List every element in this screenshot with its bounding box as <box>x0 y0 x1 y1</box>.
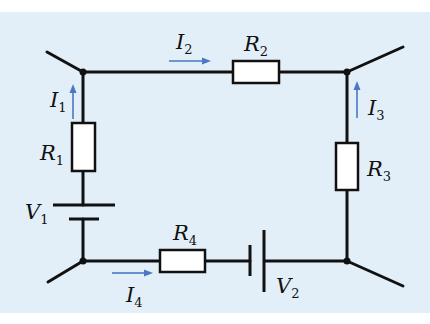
label-r4: R4 <box>172 221 197 248</box>
node-bottom-left <box>80 258 87 265</box>
arrow-i1 <box>70 84 77 119</box>
circuit-diagram: I1 I2 I3 I4 R1 R2 R3 R4 V1 V2 <box>0 0 430 324</box>
battery-v1 <box>53 205 115 219</box>
arrow-i2 <box>169 58 211 65</box>
junction-nodes <box>80 69 351 265</box>
battery-v2 <box>250 230 264 292</box>
resistor-r1 <box>72 123 95 171</box>
resistor-r2 <box>233 61 279 83</box>
lead-top-left <box>47 52 83 72</box>
label-i1: I1 <box>49 88 67 115</box>
label-i3: I3 <box>367 96 385 123</box>
label-v2: V2 <box>276 274 299 301</box>
label-v1: V1 <box>25 200 48 227</box>
arrow-up-icon <box>354 81 361 90</box>
arrow-i4 <box>112 270 153 277</box>
label-r1: R1 <box>39 141 64 168</box>
arrow-right-icon <box>144 270 153 277</box>
label-i2: I2 <box>175 30 193 57</box>
arrow-right-icon <box>202 58 211 65</box>
arrow-i3 <box>354 81 361 118</box>
node-top-left <box>80 69 87 76</box>
arrow-up-icon <box>70 84 77 93</box>
label-r2: R2 <box>243 32 268 59</box>
label-i4: I4 <box>125 283 143 310</box>
resistor-r3 <box>336 143 358 190</box>
lead-top-right <box>347 47 403 72</box>
label-r3: R3 <box>366 157 391 184</box>
node-bottom-right <box>344 258 351 265</box>
node-top-right <box>344 69 351 76</box>
lead-bottom-left <box>48 261 83 282</box>
resistor-r4 <box>160 250 205 272</box>
lead-bottom-right <box>347 261 403 286</box>
